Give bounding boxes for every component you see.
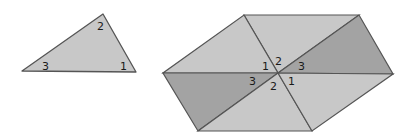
single-triangle: 2 3 1: [22, 14, 136, 73]
triangle-angle-label-3: 3: [42, 60, 49, 73]
hexagon-tessellation: 1 2 3 3 2 1: [163, 15, 393, 131]
hex-angle-label-1-upper: 1: [262, 60, 269, 73]
hex-angle-label-1-lower: 1: [288, 75, 295, 88]
triangle-angle-label-1: 1: [120, 60, 127, 73]
hex-angle-label-3-lower: 3: [249, 75, 256, 88]
hex-angle-label-2-upper: 2: [275, 55, 282, 68]
tessellation-diagram: 2 3 1 1 2 3 3 2 1: [0, 0, 413, 140]
hex-angle-label-2-lower: 2: [270, 80, 277, 93]
triangle-angle-label-2: 2: [97, 20, 104, 33]
hex-angle-label-3-upper: 3: [298, 60, 305, 73]
